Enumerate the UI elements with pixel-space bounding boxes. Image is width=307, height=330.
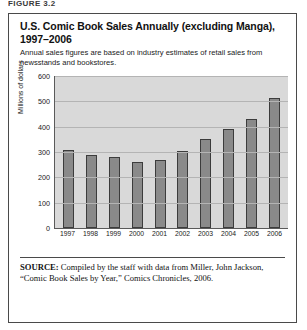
y-axis-tick-label: 600 <box>26 72 50 81</box>
gridline <box>55 152 288 153</box>
x-axis-ticks: 1997199819992000200120022003200420052006 <box>54 230 288 237</box>
y-axis-tick-label: 400 <box>26 123 50 132</box>
y-axis-ticks: 6005004003002001000 <box>20 76 50 228</box>
plot-canvas <box>54 76 288 229</box>
y-axis-tick-label: 200 <box>26 173 50 182</box>
bar <box>223 129 234 228</box>
source-divider <box>20 257 285 258</box>
bar <box>109 157 120 228</box>
figure-frame: U.S. Comic Book Sales Annually (excludin… <box>8 13 297 323</box>
x-axis-tick-label: 1999 <box>102 230 125 237</box>
bar <box>132 162 143 228</box>
bar <box>269 98 280 228</box>
bar <box>155 160 166 228</box>
y-axis-tick-label: 100 <box>26 199 50 208</box>
bar <box>177 151 188 228</box>
y-axis-tick-label: 300 <box>26 148 50 157</box>
x-axis-tick-label: 2004 <box>217 230 240 237</box>
chart-subtitle: Annual sales figures are based on indust… <box>20 48 288 68</box>
x-axis-tick-label: 2002 <box>171 230 194 237</box>
source-note: SOURCE: Compiled by the staff with data … <box>20 262 288 284</box>
x-axis-tick-label: 2001 <box>148 230 171 237</box>
x-axis-tick-label: 1997 <box>56 230 79 237</box>
x-axis-tick-label: 2005 <box>240 230 263 237</box>
bar <box>246 119 257 228</box>
bar <box>86 155 97 228</box>
y-axis-tick-label: 500 <box>26 97 50 106</box>
bar <box>63 150 74 229</box>
gridline <box>55 101 288 102</box>
gridline <box>55 203 288 204</box>
y-axis-tick-label: 0 <box>26 224 50 233</box>
figure-root: FIGURE 3.2 U.S. Comic Book Sales Annuall… <box>0 0 307 330</box>
gridline <box>55 127 288 128</box>
source-prefix: SOURCE: <box>20 262 59 272</box>
x-axis-tick-label: 2006 <box>263 230 286 237</box>
chart-plot-area: Millions of dollars 6005004003002001000 … <box>20 76 288 248</box>
gridline <box>55 76 288 77</box>
chart-title: U.S. Comic Book Sales Annually (excludin… <box>20 20 282 45</box>
x-axis-tick-label: 1998 <box>79 230 102 237</box>
gridline <box>55 177 288 178</box>
x-axis-tick-label: 2000 <box>125 230 148 237</box>
figure-label: FIGURE 3.2 <box>8 0 56 10</box>
x-axis-tick-label: 2003 <box>194 230 217 237</box>
